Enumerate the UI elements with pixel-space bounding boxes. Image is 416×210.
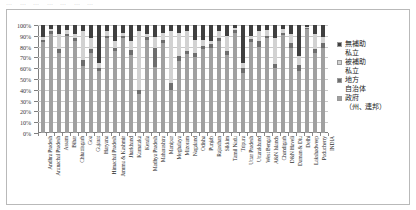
bar-segment — [257, 31, 262, 41]
bar-group — [199, 25, 207, 133]
stacked-bar — [73, 25, 78, 133]
stacked-bar — [113, 25, 118, 133]
bar-segment — [153, 37, 158, 48]
y-axis-tick-label: 60% — [20, 65, 31, 72]
bar-segment — [73, 41, 78, 133]
stacked-bar — [289, 25, 294, 133]
bar-segment — [209, 48, 214, 133]
bar-segment — [321, 48, 326, 133]
bar-group — [287, 25, 295, 133]
stacked-bar — [65, 25, 70, 133]
bar-segment — [57, 34, 62, 49]
legend-item-aided-private: 被補助私立 — [337, 58, 415, 75]
plot-area — [38, 25, 328, 133]
legend-swatch-icon — [337, 96, 342, 101]
bar-segment — [305, 29, 310, 133]
stacked-bar — [313, 25, 318, 133]
bar-group — [63, 25, 71, 133]
bar-group — [103, 25, 111, 133]
bar-group — [247, 25, 255, 133]
y-axis-tick-label: 30% — [20, 97, 31, 104]
bar-segment — [233, 33, 238, 133]
bar-segment — [273, 38, 278, 64]
bar-segment — [297, 25, 302, 56]
bar-segment — [281, 35, 286, 133]
bar-group — [183, 25, 191, 133]
bar-group — [71, 25, 79, 133]
bar-group — [159, 25, 167, 133]
bar-segment — [225, 55, 230, 133]
bar-group — [263, 25, 271, 133]
bar-segment — [249, 42, 254, 133]
bar-segment — [153, 67, 158, 133]
bar-segment — [41, 25, 46, 37]
chart-frame: 100%90%80%70%60%50%40%30%20%10%0% Andhra… — [6, 9, 410, 205]
x-axis-category-label: INDIA — [328, 136, 337, 210]
stacked-bar — [193, 25, 198, 133]
bar-segment — [257, 47, 262, 133]
bar-segment — [57, 25, 62, 34]
stacked-bar — [177, 25, 182, 133]
bar-segment — [177, 61, 182, 133]
bar-segment — [265, 38, 270, 133]
bar-segment — [105, 38, 110, 133]
stacked-bar — [41, 25, 46, 133]
bar-group — [135, 25, 143, 133]
bar-group — [279, 25, 287, 133]
bar-segment — [297, 56, 302, 65]
stacked-bar — [273, 25, 278, 133]
y-axis-labels: 100%90%80%70%60%50%40%30%20%10%0% — [7, 25, 36, 133]
bar-segment — [193, 40, 198, 53]
bar-segment — [273, 68, 278, 133]
bar-segment — [313, 25, 318, 34]
bar-segment — [113, 25, 118, 41]
bar-segment — [113, 51, 118, 133]
bar-group — [55, 25, 63, 133]
stacked-bar — [129, 25, 134, 133]
bar-group — [311, 25, 319, 133]
bar-segment — [289, 48, 294, 133]
bar-segment — [129, 55, 134, 133]
bar-segment — [89, 53, 94, 133]
bar-segment — [193, 25, 198, 40]
bar-group — [303, 25, 311, 133]
legend: 無補助私立被補助私立地方自治体政府（州、連邦） — [337, 40, 415, 112]
stacked-bar — [217, 25, 222, 133]
stacked-bar — [137, 25, 142, 133]
bar-segment — [161, 43, 166, 133]
bar-segment — [225, 36, 230, 51]
bar-series-container — [38, 25, 328, 133]
bar-segment — [137, 94, 142, 133]
chart-screenshot: ⋯ ⋯ ⋯ ⋯ ⋯ ⋯ ⋯ 100%90%80%70%60%50%40%30%2… — [0, 0, 416, 210]
y-axis-tick-label: 70% — [20, 54, 31, 61]
stacked-bar — [153, 25, 158, 133]
bar-segment — [313, 34, 318, 49]
bar-segment — [241, 73, 246, 133]
bar-group — [39, 25, 47, 133]
stacked-bar — [145, 25, 150, 133]
bar-group — [95, 25, 103, 133]
bar-group — [295, 25, 303, 133]
bar-segment — [41, 42, 46, 133]
bar-segment — [289, 25, 294, 34]
stacked-bar — [57, 25, 62, 133]
y-axis-tick-label: 90% — [20, 32, 31, 39]
bar-segment — [249, 25, 254, 36]
legend-item-local-body: 地方自治体 — [337, 76, 415, 93]
bar-segment — [193, 57, 198, 133]
bar-segment — [161, 33, 166, 41]
bar-segment — [225, 25, 230, 36]
bar-group — [79, 25, 87, 133]
top-cutoff-text: ⋯ ⋯ ⋯ ⋯ ⋯ ⋯ ⋯ — [6, 0, 266, 8]
y-axis-tick-label: 50% — [20, 76, 31, 83]
bar-segment — [169, 31, 174, 83]
bar-segment — [129, 41, 134, 50]
bar-segment — [241, 25, 246, 63]
legend-item-label: 無補助私立 — [345, 40, 365, 57]
legend-swatch-icon — [337, 78, 342, 83]
stacked-bar — [169, 25, 174, 133]
bar-segment — [313, 53, 318, 133]
bar-segment — [161, 25, 166, 33]
bar-group — [47, 25, 55, 133]
bar-segment — [273, 25, 278, 38]
